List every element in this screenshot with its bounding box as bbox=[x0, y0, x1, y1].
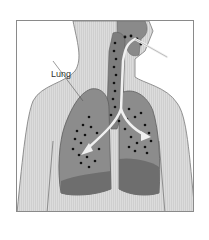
lung-label: Lung bbox=[51, 69, 71, 79]
diagram-frame: Lung bbox=[16, 20, 194, 212]
right-lung-lower-lobe bbox=[119, 158, 159, 195]
lung-diagram bbox=[17, 21, 194, 212]
